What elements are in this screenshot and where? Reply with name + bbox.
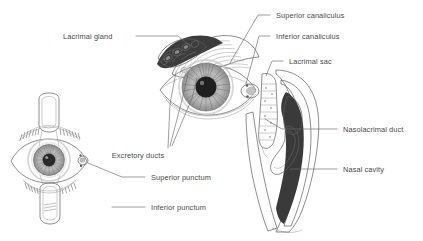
label-lacrimal-sac: Lacrimal sac — [289, 57, 332, 66]
leader-superior-punctum — [88, 163, 145, 177]
leader-superior-canaliculus — [230, 15, 270, 63]
panel-anterior-eye-everted-lids — [11, 93, 88, 224]
lacrimal-apparatus-figure: Lacrimal gland Superior canaliculus Infe… — [0, 0, 423, 241]
lacrimal-sac-and-duct — [258, 73, 279, 158]
label-excretory-ducts: Excretory ducts — [112, 151, 165, 160]
pupil — [43, 154, 56, 167]
superior-punctum-marker — [79, 154, 81, 156]
inferior-punctum-marker — [80, 165, 82, 167]
lower-eyelashes — [25, 183, 76, 194]
meibomian-striations — [44, 203, 56, 211]
label-superior-canaliculus: Superior canaliculus — [276, 11, 345, 20]
panel-nasal-sagittal-section — [246, 70, 319, 232]
pupil-orbit — [196, 77, 217, 98]
label-superior-punctum: Superior punctum — [151, 173, 211, 182]
label-inferior-canaliculus: Inferior canaliculus — [276, 32, 340, 41]
label-nasolacrimal-duct: Nasolacrimal duct — [343, 125, 403, 134]
iris — [34, 144, 65, 176]
label-nasal-cavity: Nasal cavity — [343, 165, 384, 174]
maxillary-bone — [246, 112, 277, 231]
everted-upper-eyelid — [39, 93, 59, 146]
panel-anterior-orbit — [157, 35, 259, 119]
medial-canthus-orbit — [241, 84, 259, 98]
label-lacrimal-gland: Lacrimal gland — [63, 32, 112, 41]
label-inferior-punctum: Inferior punctum — [151, 203, 206, 212]
